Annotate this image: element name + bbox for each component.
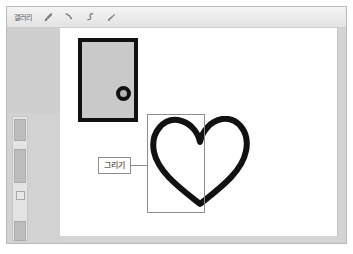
app-title: 갤러리 <box>14 14 31 21</box>
canvas-bottom-gutter <box>60 236 346 243</box>
pen-icon[interactable] <box>61 10 78 25</box>
door-knob-icon <box>116 86 131 101</box>
brush-icon[interactable] <box>40 10 57 25</box>
toolbar: 갤러리 <box>7 7 346 28</box>
drawing-canvas[interactable]: 그리기 <box>60 28 337 236</box>
sidebar <box>7 28 60 243</box>
drawing-tooltip: 그리기 <box>98 157 131 174</box>
selection-rectangle[interactable] <box>147 114 205 213</box>
vertical-scrollbar[interactable] <box>12 116 28 241</box>
app-window: 갤러리 <box>0 0 353 254</box>
scrollbar-handle-box[interactable] <box>16 191 25 200</box>
canvas-right-gutter <box>337 28 346 243</box>
curve-icon[interactable] <box>82 10 99 25</box>
eraser-icon[interactable] <box>103 10 120 25</box>
scrollbar-thumb-upper[interactable] <box>14 119 26 141</box>
drawing-tooltip-label: 그리기 <box>104 162 125 170</box>
scrollbar-thumb-middle[interactable] <box>14 149 26 183</box>
callout-leader-line <box>131 165 148 166</box>
door-shape[interactable] <box>78 38 138 122</box>
scrollbar-thumb-lower[interactable] <box>14 221 26 241</box>
sidebar-panel <box>7 28 60 114</box>
